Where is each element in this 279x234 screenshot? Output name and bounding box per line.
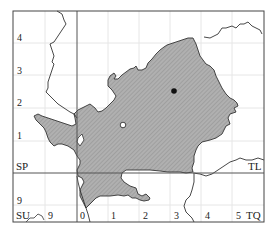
county-boundary-east xyxy=(204,22,262,38)
record-dot-marker xyxy=(171,88,177,94)
grid-square-tl: TL xyxy=(248,161,261,172)
county-boundary-west xyxy=(46,11,77,118)
axis-label-bottom-3: 3 xyxy=(174,211,179,221)
distribution-region xyxy=(34,38,238,208)
axis-label-left-2: 2 xyxy=(17,98,22,108)
distribution-map xyxy=(0,0,279,234)
axis-label-bottom-5: 5 xyxy=(236,211,241,221)
axis-label-bottom-9: 9 xyxy=(48,211,53,221)
axis-label-left-1: 1 xyxy=(17,131,22,141)
grid-square-tq: TQ xyxy=(246,210,261,221)
axis-label-left-9: 9 xyxy=(17,196,22,206)
axis-label-bottom-2: 2 xyxy=(143,211,148,221)
axis-label-bottom-4: 4 xyxy=(205,211,210,221)
grid-square-su: SU xyxy=(16,210,30,221)
axis-label-bottom-0: 0 xyxy=(80,211,85,221)
grid-square-sp: SP xyxy=(16,161,28,172)
axis-label-bottom-1: 1 xyxy=(111,211,116,221)
axis-label-left-3: 3 xyxy=(17,66,22,76)
axis-label-left-4: 4 xyxy=(17,33,22,43)
county-boundary-south xyxy=(184,174,194,222)
record-open-circle-marker xyxy=(120,122,126,128)
